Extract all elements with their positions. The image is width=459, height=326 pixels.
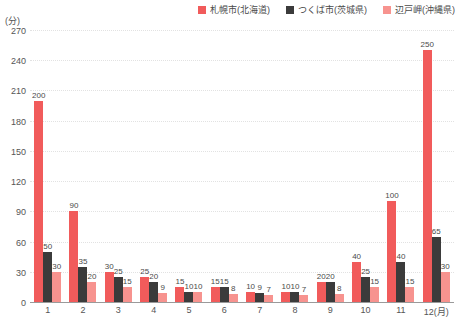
bar[interactable] <box>255 293 264 302</box>
bar-value-label: 10 <box>282 282 291 291</box>
bar[interactable] <box>441 272 450 302</box>
bar-value-label: 20 <box>88 272 97 281</box>
bar-value-label: 25 <box>114 267 123 276</box>
bar[interactable] <box>335 294 344 302</box>
bar[interactable] <box>184 292 193 302</box>
bar-slot: 9 <box>255 30 264 302</box>
x-axis-tick-label: 1 <box>30 305 65 318</box>
bar-value-label: 20 <box>149 272 158 281</box>
bar[interactable] <box>175 287 184 302</box>
bar[interactable] <box>229 294 238 302</box>
bar-value-label: 7 <box>266 285 270 294</box>
bar[interactable] <box>114 277 123 302</box>
bar[interactable] <box>123 287 132 302</box>
legend-label: つくば市(茨城県) <box>298 5 367 15</box>
x-axis-tick-label: 11 <box>383 305 418 318</box>
bar-group: 10107 <box>277 30 312 302</box>
legend-item[interactable]: 札幌市(北海道) <box>198 5 270 15</box>
bar[interactable] <box>140 277 149 302</box>
bar-slot: 40 <box>396 30 405 302</box>
x-axis-tick-label: 3 <box>101 305 136 318</box>
bar[interactable] <box>387 201 396 302</box>
bar-group: 302515 <box>101 30 136 302</box>
bar[interactable] <box>405 287 414 302</box>
bar-slot: 200 <box>34 30 43 302</box>
x-axis-tick-label: 9 <box>313 305 348 318</box>
bar[interactable] <box>352 262 361 302</box>
bar-slot: 40 <box>352 30 361 302</box>
bar-slot: 30 <box>441 30 450 302</box>
bar-slot: 30 <box>52 30 61 302</box>
bar[interactable] <box>220 287 229 302</box>
bar-group: 1004015 <box>383 30 418 302</box>
bar[interactable] <box>281 292 290 302</box>
bar-chart: 札幌市(北海道)つくば市(茨城県)辺戸岬(沖縄県) (分) 0306090120… <box>0 0 459 326</box>
legend-item[interactable]: 辺戸岬(沖縄県) <box>383 5 455 15</box>
bar-slot: 15 <box>123 30 132 302</box>
bar-slot: 8 <box>229 30 238 302</box>
bar[interactable] <box>158 293 167 302</box>
y-axis-tick-label: 150 <box>11 147 26 157</box>
bar[interactable] <box>211 287 220 302</box>
bar[interactable] <box>317 282 326 302</box>
bar[interactable] <box>264 295 273 302</box>
bar-slot: 15 <box>220 30 229 302</box>
bar-slot: 25 <box>361 30 370 302</box>
bar[interactable] <box>361 277 370 302</box>
bar[interactable] <box>326 282 335 302</box>
bar-value-label: 90 <box>70 201 79 210</box>
bar[interactable] <box>423 50 432 302</box>
bar[interactable] <box>78 267 87 302</box>
bar[interactable] <box>432 237 441 302</box>
bar-slot: 15 <box>370 30 379 302</box>
bar-slot: 7 <box>299 30 308 302</box>
legend-item[interactable]: つくば市(茨城県) <box>286 5 367 15</box>
bar-value-label: 15 <box>123 277 132 286</box>
bar[interactable] <box>246 292 255 302</box>
bar[interactable] <box>149 282 158 302</box>
bar[interactable] <box>43 252 52 302</box>
y-axis-tick-label: 30 <box>16 268 26 278</box>
bar-value-label: 9 <box>160 283 164 292</box>
bar-slot: 100 <box>387 30 396 302</box>
bar-slot: 20 <box>326 30 335 302</box>
bar-group: 402515 <box>348 30 383 302</box>
bar-value-label: 15 <box>211 277 220 286</box>
bar-slot: 20 <box>149 30 158 302</box>
bar-slot: 50 <box>43 30 52 302</box>
bar-group: 25209 <box>136 30 171 302</box>
bar-value-label: 10 <box>194 282 203 291</box>
bar[interactable] <box>290 292 299 302</box>
x-axis-labels: 123456789101112(月) <box>30 305 454 318</box>
x-axis-tick-label: 6 <box>207 305 242 318</box>
bar[interactable] <box>193 292 202 302</box>
bar-slot: 15 <box>175 30 184 302</box>
bar[interactable] <box>299 295 308 302</box>
bar[interactable] <box>69 211 78 302</box>
bar[interactable] <box>396 262 405 302</box>
bar[interactable] <box>34 101 43 302</box>
x-axis-tick-label: 4 <box>136 305 171 318</box>
bar-value-label: 65 <box>432 227 441 236</box>
bar-slot: 20 <box>87 30 96 302</box>
x-axis-line: 0 <box>30 302 454 303</box>
bar-value-label: 7 <box>302 285 306 294</box>
bar[interactable] <box>52 272 61 302</box>
legend-swatch-icon <box>383 6 391 14</box>
bar-value-label: 15 <box>370 277 379 286</box>
chart-legend: 札幌市(北海道)つくば市(茨城県)辺戸岬(沖縄県) <box>175 2 455 18</box>
legend-label: 辺戸岬(沖縄県) <box>395 5 455 15</box>
bar[interactable] <box>105 272 114 302</box>
bar-group: 1097 <box>242 30 277 302</box>
x-axis-tick-label: 8 <box>277 305 312 318</box>
bar-value-label: 10 <box>185 282 194 291</box>
bar-slot: 10 <box>184 30 193 302</box>
bar[interactable] <box>87 282 96 302</box>
y-axis-tick-label: 60 <box>16 238 26 248</box>
y-axis-tick-label: 90 <box>16 207 26 217</box>
bar-value-label: 9 <box>257 283 261 292</box>
bar-slot: 250 <box>423 30 432 302</box>
bar-value-label: 30 <box>52 262 61 271</box>
bar-value-label: 40 <box>352 252 361 261</box>
bar[interactable] <box>370 287 379 302</box>
